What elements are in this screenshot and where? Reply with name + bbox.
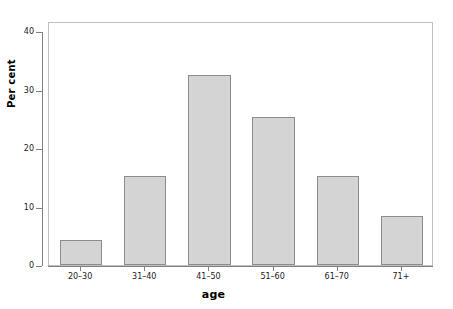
x-tick-label: 20–30: [68, 272, 92, 281]
y-axis-title: Per cent: [6, 59, 17, 108]
bars-layer: [49, 23, 432, 265]
y-tick-label: 20: [0, 145, 34, 153]
x-tick-mark: [273, 266, 274, 271]
x-tick-mark: [208, 266, 209, 271]
chart-figure: 010203040 20–3031–4041–5051–6061–7071+ P…: [0, 0, 453, 309]
bar-61-70: [317, 176, 359, 265]
x-tick-mark: [401, 266, 402, 271]
y-tick-mark: [36, 149, 42, 150]
bar-51-60: [252, 117, 294, 265]
x-tick-label: 41–50: [196, 272, 220, 281]
y-tick-mark: [36, 91, 42, 92]
y-tick-label: 0: [0, 262, 34, 270]
y-tick-mark: [36, 208, 42, 209]
x-tick-label: 61–70: [325, 272, 349, 281]
y-tick-label: 40: [0, 28, 34, 36]
x-axis-title: age: [0, 288, 453, 301]
x-tick-label: 71+: [392, 272, 409, 281]
y-axis-line: [42, 32, 43, 266]
bar-41-50: [188, 75, 230, 265]
x-tick-mark: [144, 266, 145, 271]
x-tick-label: 51–60: [260, 272, 284, 281]
plot-panel: [48, 22, 433, 266]
y-tick-label: 10: [0, 204, 34, 212]
bar-31-40: [124, 176, 166, 265]
bar-71+: [381, 216, 423, 265]
x-axis-line: [48, 266, 433, 267]
y-tick-mark: [36, 32, 42, 33]
x-tick-mark: [80, 266, 81, 271]
x-tick-label: 31–40: [132, 272, 156, 281]
x-axis-title-text: age: [202, 288, 225, 301]
y-tick-mark: [36, 266, 42, 267]
x-tick-mark: [337, 266, 338, 271]
bar-20-30: [60, 240, 102, 265]
